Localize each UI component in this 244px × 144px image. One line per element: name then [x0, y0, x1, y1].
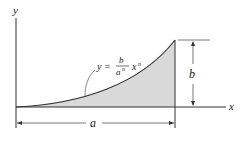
- equation-denominator-exp: n: [122, 66, 125, 72]
- equation-numerator: b: [119, 55, 124, 65]
- x-axis-label: x: [228, 100, 234, 112]
- equation-var-exp: n: [138, 61, 141, 67]
- equation-var: x: [131, 61, 137, 72]
- curve-equation: y = b a n x n: [96, 55, 141, 77]
- spandrel-diagram: y x b a y = b a n x n: [0, 0, 244, 144]
- y-axis-label: y: [12, 4, 18, 16]
- b-arrow-down-icon: [191, 101, 195, 106]
- a-arrow-right-icon: [169, 121, 174, 125]
- b-dimension-label: b: [189, 67, 195, 81]
- equation-denominator-base: a: [116, 67, 121, 77]
- b-arrow-up-icon: [191, 41, 195, 46]
- shaded-area: [16, 40, 175, 107]
- equation-leader: [85, 70, 95, 96]
- equation-lhs: y =: [96, 61, 111, 72]
- a-dimension-label: a: [90, 116, 96, 130]
- a-arrow-left-icon: [17, 121, 22, 125]
